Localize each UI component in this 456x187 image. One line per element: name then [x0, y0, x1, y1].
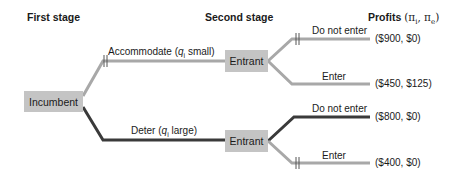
payoff-upper-do-not-enter: ($900, $0)	[375, 33, 421, 44]
edge-lower-do-not-enter	[268, 117, 370, 141]
label-upper-enter: Enter	[322, 71, 346, 82]
entrant-node-upper: Entrant	[225, 50, 268, 72]
label-accommodate: Accommodate (qi small)	[108, 46, 215, 59]
entrant-node-lower: Entrant	[225, 130, 268, 152]
label-upper-do-not-enter: Do not enter	[312, 25, 367, 36]
payoff-lower-do-not-enter: ($800, $0)	[375, 111, 421, 122]
label-lower-do-not-enter: Do not enter	[312, 103, 367, 114]
payoff-lower-enter: ($400, $0)	[375, 157, 421, 168]
edge-upper-enter	[268, 61, 370, 84]
label-deter: Deter (qi large)	[131, 125, 197, 138]
payoff-upper-enter: ($450, $125)	[375, 78, 432, 89]
label-lower-enter: Enter	[322, 150, 346, 161]
incumbent-node: Incumbent	[24, 91, 83, 112]
edge-upper-do-not-enter	[268, 39, 370, 61]
edge-lower-enter	[268, 141, 370, 163]
